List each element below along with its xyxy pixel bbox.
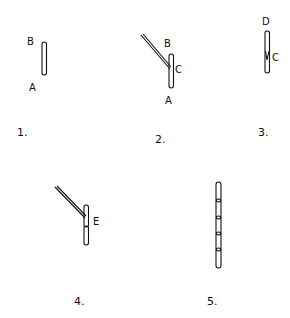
point-label-b: B [27,36,34,47]
step-number: 1. [17,126,28,139]
point-label-e: E [93,216,99,227]
step-5: 5. [207,182,221,308]
step-number: 5. [207,295,218,308]
point-label-a: A [29,82,36,93]
point-label-a: A [165,95,172,106]
needle-icon [55,186,86,218]
chain-stitch-diagram: B A 1. B C A 2. D C 3. E 4. 5. [0,0,290,318]
point-label-d: D [262,16,270,27]
point-label-b: B [164,38,171,49]
step-number: 3. [258,126,269,139]
stitch-loop [169,54,174,88]
thread-crossing [266,51,270,60]
stitch-loop-upper [84,205,89,227]
point-label-c: C [272,52,279,63]
step-2: B C A 2. [141,34,182,146]
point-label-c: C [175,64,182,75]
step-1: B A 1. [17,36,47,139]
stitch-loop [42,42,47,75]
step-number: 4. [74,295,85,308]
step-number: 2. [155,133,166,146]
stitch-loop-lower [84,226,89,245]
step-4: E 4. [55,186,99,308]
step-3: D C 3. [258,16,279,139]
